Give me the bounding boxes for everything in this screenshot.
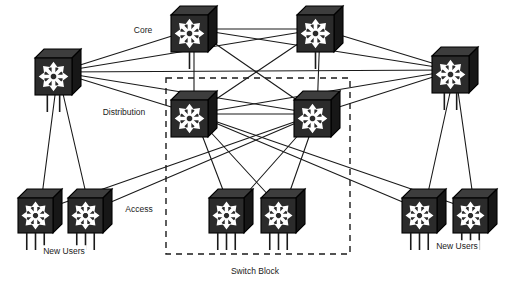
switch-icon-side-face xyxy=(334,6,343,52)
label-new-users-left: New Users xyxy=(43,246,85,256)
network-topology-canvas: CoreDistributionAccessNew UsersNew Users… xyxy=(0,0,510,285)
label-switch-block: Switch Block xyxy=(231,266,280,276)
core-switch-right[interactable] xyxy=(432,47,478,93)
network-diagram: CoreDistributionAccessNew UsersNew Users… xyxy=(0,0,510,285)
access-switch-2[interactable] xyxy=(68,189,112,233)
access-switch-4[interactable] xyxy=(261,189,305,233)
label-layer: CoreDistributionAccessNew UsersNew Users… xyxy=(41,24,480,277)
device-layer xyxy=(18,6,497,250)
switch-icon-side-face xyxy=(72,49,81,95)
access-switch-5[interactable] xyxy=(402,189,446,233)
core-switch-top-left[interactable] xyxy=(171,6,217,52)
distribution-switch-left[interactable] xyxy=(171,91,217,137)
label-distribution: Distribution xyxy=(103,107,146,117)
access-switch-5-user-legs xyxy=(411,233,429,250)
core-switch-left[interactable] xyxy=(35,49,81,95)
access-switch-1[interactable] xyxy=(18,189,62,233)
distribution-switch-right[interactable] xyxy=(294,91,340,137)
switch-icon-side-face xyxy=(469,47,478,93)
link-layer xyxy=(40,29,475,211)
label-new-users-right: New Users xyxy=(436,241,478,251)
core-switch-top-right[interactable] xyxy=(297,6,343,52)
label-core: Core xyxy=(134,25,153,35)
switch-icon-side-face xyxy=(208,91,217,137)
core-switch-right-user-legs xyxy=(444,93,456,110)
access-switch-3[interactable] xyxy=(209,189,253,233)
access-switch-4-user-legs xyxy=(270,233,288,250)
switch-icon-side-face xyxy=(331,91,340,137)
label-access: Access xyxy=(125,204,152,214)
switch-icon-side-face xyxy=(208,6,217,52)
access-switch-6[interactable] xyxy=(453,189,497,233)
access-switch-3-user-legs xyxy=(218,233,236,250)
